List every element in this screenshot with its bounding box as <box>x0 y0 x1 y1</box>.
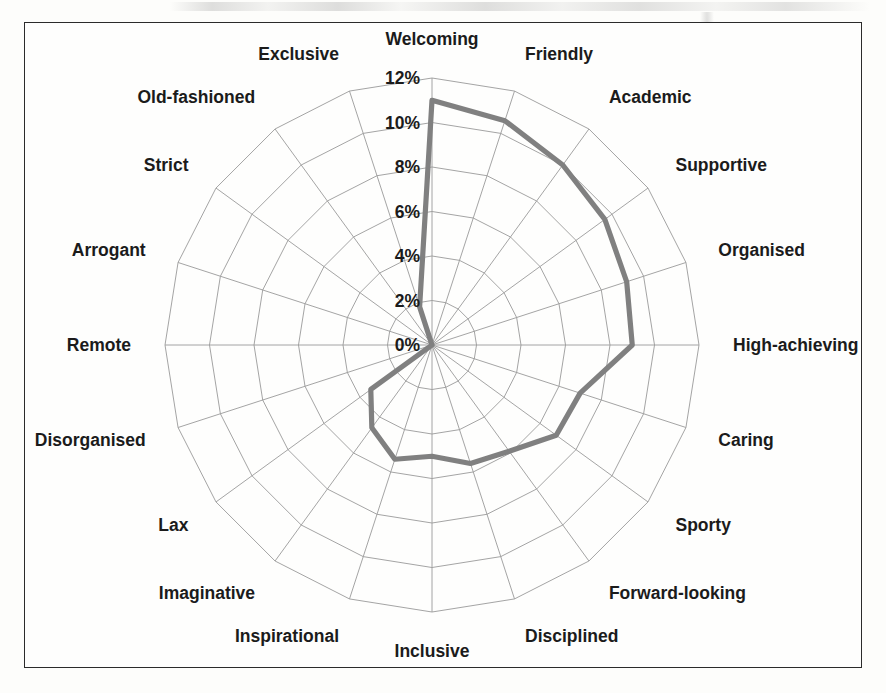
axis-label-high-achieving: High-achieving <box>733 335 858 355</box>
axis-label-lax: Lax <box>158 515 188 535</box>
radial-tick-label: 2% <box>395 291 421 311</box>
radial-tick-label: 6% <box>395 202 421 222</box>
radial-tick-label: 4% <box>395 246 421 266</box>
grid-spoke-academic <box>432 129 589 345</box>
axis-label-old-fashioned: Old-fashioned <box>137 87 255 107</box>
axis-label-strict: Strict <box>144 155 189 175</box>
axis-label-exclusive: Exclusive <box>258 44 339 64</box>
radial-tick-label: 0% <box>395 335 421 355</box>
grid-spoke-imaginative <box>275 345 432 561</box>
series-polygon-0 <box>371 100 632 463</box>
axis-label-organised: Organised <box>718 240 805 260</box>
radial-tick-label: 12% <box>385 68 420 88</box>
axis-label-arrogant: Arrogant <box>72 240 146 260</box>
axis-label-inspirational: Inspirational <box>235 626 339 646</box>
grid-spoke-supportive <box>432 188 648 345</box>
radial-tick-label: 8% <box>395 157 421 177</box>
axis-label-forward-looking: Forward-looking <box>609 583 746 603</box>
radial-tick-label: 10% <box>385 113 420 133</box>
axis-label-inclusive: Inclusive <box>395 641 470 661</box>
radar-series-group <box>371 100 632 463</box>
scanned-page-background: 0%2%4%6%8%10%12% WelcomingFriendlyAcadem… <box>0 0 886 693</box>
axis-label-imaginative: Imaginative <box>159 583 256 603</box>
axis-label-supportive: Supportive <box>676 155 768 175</box>
axis-label-disorganised: Disorganised <box>35 430 146 450</box>
axis-label-disciplined: Disciplined <box>525 626 618 646</box>
axis-label-friendly: Friendly <box>525 44 593 64</box>
grid-spoke-sporty <box>432 345 648 502</box>
axis-label-welcoming: Welcoming <box>385 29 478 49</box>
axis-label-caring: Caring <box>718 430 773 450</box>
axis-label-remote: Remote <box>67 335 131 355</box>
radar-chart: 0%2%4%6%8%10%12% WelcomingFriendlyAcadem… <box>0 0 886 693</box>
axis-label-sporty: Sporty <box>676 515 732 535</box>
axis-label-academic: Academic <box>609 87 692 107</box>
